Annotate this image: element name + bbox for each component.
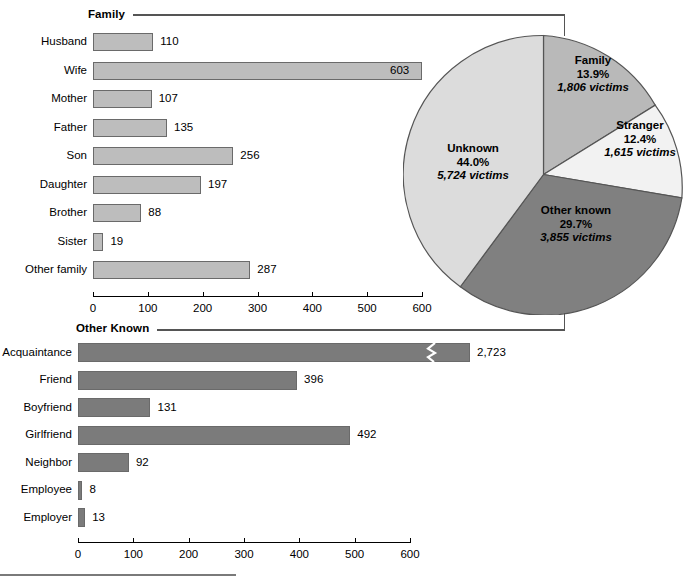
- other-known-connector-horizontal: [157, 329, 565, 331]
- bar-category-label: Employer: [0, 512, 72, 524]
- bar-daughter[interactable]: [93, 176, 201, 194]
- x-axis-tick-label: 0: [53, 549, 103, 561]
- bar-value-label: 19: [110, 236, 123, 248]
- bar-value-label: 110: [160, 36, 178, 48]
- bar-son[interactable]: [93, 147, 233, 165]
- pie-label-other-known-name: Other known: [513, 204, 639, 218]
- bar-category-label: Sister: [0, 236, 87, 248]
- pie-label-family-name: Family: [538, 54, 648, 68]
- x-axis-tick: [258, 292, 259, 297]
- bar-value-label: 92: [136, 457, 149, 469]
- x-axis-tick-label: 200: [164, 549, 214, 561]
- pie-label-other-known: Other known 29.7% 3,855 victims: [513, 204, 639, 245]
- bar-value-label: 131: [157, 402, 176, 414]
- pie-label-unknown-pct: 44.0%: [411, 156, 535, 170]
- bar-boyfriend[interactable]: [78, 398, 150, 417]
- bar-employer[interactable]: [78, 508, 85, 527]
- pie-label-stranger-victims: 1,615 victims: [585, 146, 687, 160]
- x-axis-tick: [312, 292, 313, 297]
- bar-mother[interactable]: [93, 90, 152, 108]
- bar-category-label: Acquaintance: [0, 347, 72, 359]
- x-axis-tick: [133, 538, 134, 543]
- x-axis-tick: [244, 538, 245, 543]
- pie-label-other-known-pct: 29.7%: [513, 218, 639, 232]
- pie-label-stranger: Stranger 12.4% 1,615 victims: [585, 119, 687, 160]
- bar-value-label: 256: [240, 150, 259, 162]
- bar-category-label: Son: [0, 150, 87, 162]
- bar-neighbor[interactable]: [78, 453, 129, 472]
- pie-label-unknown-name: Unknown: [411, 142, 535, 156]
- x-axis-tick-label: 100: [108, 549, 158, 561]
- bar-brother[interactable]: [93, 204, 141, 222]
- bar-value-label: 197: [208, 179, 227, 191]
- x-axis-tick-label: 600: [385, 549, 435, 561]
- x-axis-tick-label: 500: [330, 549, 380, 561]
- bar-category-label: Daughter: [0, 179, 87, 191]
- x-axis-tick-label: 200: [178, 303, 228, 315]
- x-axis-tick-label: 300: [219, 549, 269, 561]
- bar-value-label: 13: [92, 512, 105, 524]
- footer-rule: [0, 574, 236, 576]
- x-axis-tick: [93, 292, 94, 297]
- bar-friend[interactable]: [78, 371, 297, 390]
- bar-acquaintance[interactable]: [78, 343, 470, 362]
- bar-value-label: 88: [148, 207, 161, 219]
- x-axis-tick: [299, 538, 300, 543]
- x-axis-tick: [410, 538, 411, 543]
- bar-value-label: 492: [357, 429, 376, 441]
- x-axis-tick: [189, 538, 190, 543]
- pie-label-unknown: Unknown 44.0% 5,724 victims: [411, 142, 535, 183]
- bar-category-label: Brother: [0, 207, 87, 219]
- bar-category-label: Father: [0, 122, 87, 134]
- bar-category-label: Boyfriend: [0, 402, 72, 414]
- other-known-connector-vertical: [564, 313, 566, 330]
- section-label-other-known: Other Known: [76, 322, 149, 334]
- family-connector-vertical: [564, 14, 566, 36]
- x-axis-tick-label: 500: [342, 303, 392, 315]
- x-axis-tick: [203, 292, 204, 297]
- pie-label-stranger-pct: 12.4%: [585, 133, 687, 147]
- bar-category-label: Wife: [0, 65, 87, 77]
- bar-other-family[interactable]: [93, 261, 250, 279]
- bar-category-label: Other family: [0, 264, 87, 276]
- x-axis-tick-label: 300: [233, 303, 283, 315]
- pie-label-other-known-victims: 3,855 victims: [513, 231, 639, 245]
- bar-category-label: Girlfriend: [0, 429, 72, 441]
- pie-label-family-victims: 1,806 victims: [538, 81, 648, 95]
- x-axis-tick-label: 400: [287, 303, 337, 315]
- x-axis-tick-label: 0: [68, 303, 118, 315]
- pie-label-family-pct: 13.9%: [538, 68, 648, 82]
- x-axis-tick: [148, 292, 149, 297]
- bar-father[interactable]: [93, 119, 167, 137]
- x-axis-tick: [355, 538, 356, 543]
- bar-category-label: Employee: [0, 484, 72, 496]
- bar-sister[interactable]: [93, 233, 103, 251]
- family-connector-horizontal: [133, 14, 565, 16]
- bar-value-label: 107: [159, 93, 178, 105]
- pie-label-unknown-victims: 5,724 victims: [411, 169, 535, 183]
- bar-value-label: 2,723: [477, 347, 506, 359]
- bar-category-label: Friend: [0, 374, 72, 386]
- bar-category-label: Mother: [0, 93, 87, 105]
- bar-category-label: Neighbor: [0, 457, 72, 469]
- bar-value-label: 135: [174, 122, 193, 134]
- bar-value-label: 8: [89, 484, 95, 496]
- bar-value-label: 396: [304, 374, 323, 386]
- pie-label-stranger-name: Stranger: [585, 119, 687, 133]
- x-axis-tick: [367, 292, 368, 297]
- x-axis-tick: [78, 538, 79, 543]
- bar-category-label: Husband: [0, 36, 87, 48]
- section-label-family: Family: [88, 8, 125, 20]
- bar-employee[interactable]: [78, 481, 82, 500]
- bar-value-label: 287: [257, 264, 276, 276]
- bar-wife[interactable]: [93, 62, 422, 80]
- pie-label-family: Family 13.9% 1,806 victims: [538, 54, 648, 95]
- relationship-pie-chart: Family 13.9% 1,806 victims Stranger 12.4…: [403, 34, 684, 315]
- bar-girlfriend[interactable]: [78, 426, 350, 445]
- bar-husband[interactable]: [93, 33, 153, 51]
- axis-break-zigzag: [425, 343, 439, 362]
- x-axis-tick-label: 100: [123, 303, 173, 315]
- x-axis-tick-label: 400: [274, 549, 324, 561]
